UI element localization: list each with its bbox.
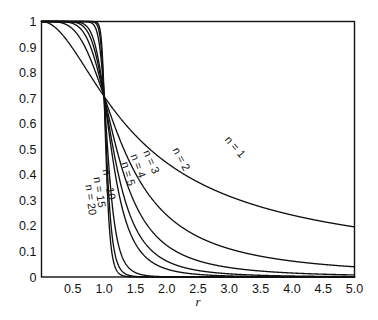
x-tick-label: 0.5 [64,282,81,296]
x-tick-label: 1.0 [95,282,112,296]
butterworth-response-plot: 00.10.20.30.40.50.60.70.80.91 0.51.01.52… [0,0,378,320]
y-tick-label: 0.6 [19,117,36,131]
x-tick-label: 4.0 [283,282,300,296]
y-tick-label: 0.3 [19,194,36,208]
y-tick-label: 0.8 [19,66,36,80]
y-tick-label: 0.7 [19,92,36,106]
y-tick-label: 0.2 [19,219,36,233]
y-tick-label: 0.1 [19,245,36,259]
x-tick-label: 3.5 [252,282,269,296]
x-tick-label: 4.5 [315,282,332,296]
y-tick-label: 1 [30,15,37,29]
y-tick-label: 0.4 [19,168,36,182]
y-tick-label: 0.5 [19,143,36,157]
x-tick-label: 5.0 [346,282,363,296]
y-tick-label: 0 [30,271,37,285]
chart-figure: 00.10.20.30.40.50.60.70.80.91 0.51.01.52… [0,0,378,320]
y-tick-label: 0.9 [19,41,36,55]
x-tick-label: 2.0 [158,282,175,296]
x-tick-label: 1.5 [127,282,144,296]
x-tick-label: 3.0 [221,282,238,296]
